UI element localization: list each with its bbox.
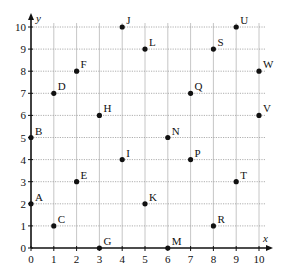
x-axis-arrow-icon <box>266 245 273 251</box>
point-label: E <box>81 169 88 181</box>
point-label: L <box>149 36 156 48</box>
point-label: T <box>240 169 247 181</box>
point-label: J <box>126 14 131 26</box>
point-label: G <box>103 235 111 247</box>
point-marker-icon <box>28 201 33 206</box>
y-tick-label: 2 <box>21 198 27 210</box>
point-marker-icon <box>142 201 147 206</box>
y-tick-label: 6 <box>21 109 27 121</box>
y-tick-label: 3 <box>21 176 27 188</box>
x-tick-label: 0 <box>28 253 34 265</box>
y-tick-label: 4 <box>21 154 27 166</box>
point-label: S <box>217 36 223 48</box>
point-label: P <box>195 147 201 159</box>
x-tick-label: 8 <box>211 253 217 265</box>
point-marker-icon <box>120 24 125 29</box>
y-tick-label: 5 <box>21 132 27 144</box>
point-marker-icon <box>256 113 261 118</box>
point-marker-icon <box>74 179 79 184</box>
point-marker-icon <box>256 69 261 74</box>
x-tick-label: 9 <box>233 253 239 265</box>
x-axis-label: x <box>262 232 268 244</box>
point-marker-icon <box>97 113 102 118</box>
y-axis-label: y <box>35 12 41 24</box>
tick-labels: 012345678910012345678910 <box>15 21 265 265</box>
point-label: N <box>172 125 180 137</box>
point-label: A <box>35 191 43 203</box>
point-label: B <box>35 125 42 137</box>
point-marker-icon <box>28 135 33 140</box>
y-tick-label: 7 <box>21 87 27 99</box>
point-marker-icon <box>97 245 102 250</box>
point-label: R <box>217 213 225 225</box>
x-tick-label: 6 <box>165 253 171 265</box>
point-marker-icon <box>142 47 147 52</box>
y-tick-label: 1 <box>21 220 27 232</box>
y-tick-label: 8 <box>21 65 27 77</box>
coordinate-plane: xy 012345678910012345678910 ABCDEFGHIJKL… <box>0 0 290 278</box>
x-tick-label: 5 <box>142 253 148 265</box>
point-marker-icon <box>211 47 216 52</box>
y-tick-label: 9 <box>21 43 27 55</box>
point-marker-icon <box>51 223 56 228</box>
point-marker-icon <box>211 223 216 228</box>
point-label: V <box>263 102 271 114</box>
point-marker-icon <box>165 245 170 250</box>
point-label: C <box>58 213 65 225</box>
point-marker-icon <box>165 135 170 140</box>
point-label: U <box>240 14 248 26</box>
point-marker-icon <box>51 91 56 96</box>
point-label: D <box>58 80 66 92</box>
y-tick-label: 0 <box>21 242 27 254</box>
point-label: M <box>172 235 182 247</box>
grid <box>31 23 265 248</box>
point-marker-icon <box>188 91 193 96</box>
point-label: W <box>263 58 274 70</box>
point-label: I <box>126 147 130 159</box>
point-label: H <box>103 102 111 114</box>
point-label: F <box>81 58 87 70</box>
x-tick-label: 3 <box>97 253 103 265</box>
x-tick-label: 1 <box>51 253 57 265</box>
point-e: E <box>74 169 88 185</box>
point-marker-icon <box>234 24 239 29</box>
x-tick-label: 7 <box>188 253 194 265</box>
point-label: K <box>149 191 157 203</box>
point-v: V <box>256 102 271 118</box>
point-marker-icon <box>74 69 79 74</box>
x-tick-label: 2 <box>74 253 80 265</box>
point-marker-icon <box>120 157 125 162</box>
x-tick-label: 10 <box>254 253 266 265</box>
y-tick-label: 10 <box>15 21 27 33</box>
x-tick-label: 4 <box>119 253 125 265</box>
point-marker-icon <box>188 157 193 162</box>
point-marker-icon <box>234 179 239 184</box>
point-label: Q <box>195 80 203 92</box>
y-axis-arrow-icon <box>28 13 34 20</box>
